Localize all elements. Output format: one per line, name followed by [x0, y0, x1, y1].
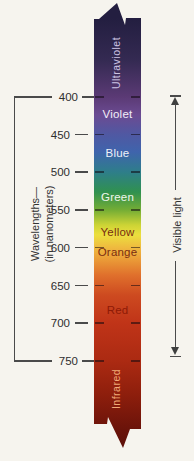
bar-edge-tick-500-left [95, 171, 104, 173]
wavelength-tick-label-700: 700 [30, 317, 70, 329]
bar-edge-tick-650-right [131, 285, 140, 287]
tick-line-700 [75, 322, 88, 324]
left-axis-label-line2: (in nanometers) [43, 139, 57, 309]
bar-edge-tick-550-right [131, 209, 140, 211]
band-label-ultraviolet: Ultraviolet [109, 18, 123, 108]
tick-line-650 [75, 285, 88, 287]
tick-line-750 [82, 360, 94, 362]
tick-line-500 [75, 171, 88, 173]
right-axis-label: Visible light [170, 170, 184, 280]
tick-line-400 [82, 96, 94, 98]
left-axis-label-line1: Wavelengths— [29, 139, 43, 309]
band-label-orange: Orange [94, 245, 141, 259]
bracket-arm-750 [14, 360, 52, 362]
tick-line-450 [75, 134, 88, 136]
left-bracket-line [14, 97, 16, 361]
band-label-red: Red [94, 303, 141, 317]
bar-edge-tick-750-left [95, 360, 104, 362]
bar-edge-tick-400-right [131, 96, 140, 98]
bar-edge-tick-700-right [131, 322, 140, 324]
band-label-blue: Blue [94, 146, 141, 160]
band-label-violet: Violet [94, 107, 141, 121]
spectrum-figure: 400450500550600650700750 UltravioletViol… [0, 0, 194, 461]
down-arrow-icon [171, 347, 179, 355]
visible-range-bottom-cap [170, 356, 181, 358]
bracket-arm-400 [14, 96, 52, 98]
bar-edge-tick-450-right [131, 134, 140, 136]
visible-range-line-lower [175, 261, 176, 348]
bar-edge-tick-750-right [131, 360, 140, 362]
left-axis-label: Wavelengths— (in nanometers) [29, 139, 59, 309]
bar-edge-tick-550-left [95, 209, 104, 211]
bar-edge-tick-700-left [95, 322, 104, 324]
band-label-infrared: Infrared [109, 344, 123, 434]
tick-line-550 [75, 209, 88, 211]
bar-edge-tick-400-left [95, 96, 104, 98]
band-label-yellow: Yellow [94, 225, 141, 239]
bar-edge-tick-650-left [95, 285, 104, 287]
bar-edge-tick-450-left [95, 134, 104, 136]
band-label-green: Green [94, 190, 141, 204]
tick-line-600 [75, 247, 88, 249]
bar-edge-tick-500-right [131, 171, 140, 173]
